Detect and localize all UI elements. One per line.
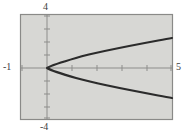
graph-figure: 4 -1 5 -4 [0,0,187,137]
axis-label-left: -1 [3,62,11,72]
axis-label-bottom: -4 [40,122,48,132]
axis-label-right: 5 [176,62,181,72]
axis-label-top: 4 [43,2,48,12]
plot-area [0,0,187,137]
